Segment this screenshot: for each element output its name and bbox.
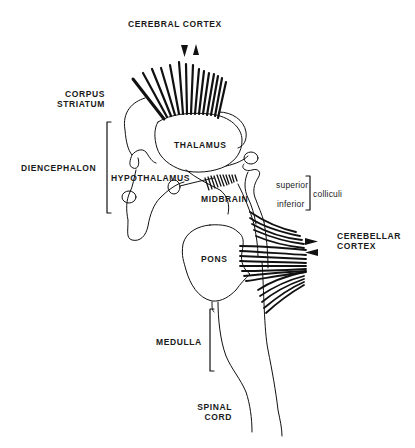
label-cerebellar-cortex-1: CEREBELLAR bbox=[337, 231, 401, 242]
medulla-bracket bbox=[210, 309, 214, 371]
cerebellar-arrows bbox=[305, 238, 318, 256]
arrow-up-icon bbox=[193, 44, 199, 55]
label-inferior: inferior bbox=[277, 199, 305, 210]
mammillary-body bbox=[122, 191, 136, 203]
cerebral-cortex-arrows bbox=[181, 44, 199, 57]
label-cerebral-cortex: CEREBRAL CORTEX bbox=[128, 19, 222, 30]
label-spinal-cord-2: CORD bbox=[190, 412, 232, 423]
label-corpus-striatum-1: CORPUS bbox=[58, 89, 105, 100]
cerebellar-fibers bbox=[240, 212, 306, 313]
label-diencephalon: DIENCEPHALON bbox=[21, 163, 96, 174]
arrow-left-icon bbox=[305, 249, 318, 256]
diencephalon-bracket bbox=[107, 122, 111, 213]
label-thalamus: THALAMUS bbox=[174, 140, 227, 151]
label-corpus-striatum-2: STRIATUM bbox=[50, 99, 105, 110]
label-cerebellar-cortex-2: CORTEX bbox=[337, 241, 376, 252]
label-hypothalamus: HYPOTHALAMUS bbox=[111, 173, 190, 184]
label-colliculi: colliculi bbox=[313, 189, 342, 200]
label-medulla: MEDULLA bbox=[156, 337, 202, 348]
midbrain-fibers bbox=[205, 175, 237, 190]
thalamocortical-fibers bbox=[133, 62, 226, 119]
label-superior: superior bbox=[276, 180, 308, 191]
forebrain-outline bbox=[124, 98, 246, 163]
brainstem-drawing bbox=[0, 0, 415, 448]
brainstem-diagram: CEREBRAL CORTEX CORPUS STRIATUM DIENCEPH… bbox=[0, 0, 415, 448]
arrow-down-icon bbox=[181, 45, 188, 57]
label-spinal-cord-1: SPINAL bbox=[190, 402, 232, 413]
label-midbrain: MIDBRAIN bbox=[201, 194, 248, 205]
arrow-right-icon bbox=[305, 238, 318, 245]
label-pons: PONS bbox=[201, 254, 228, 265]
